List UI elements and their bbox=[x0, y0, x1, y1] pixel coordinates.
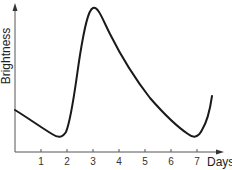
x-tick-label: 3 bbox=[90, 156, 96, 167]
x-axis-arrow-icon bbox=[216, 150, 224, 155]
brightness-curve bbox=[15, 8, 212, 137]
x-tick-label: 7 bbox=[194, 156, 200, 167]
x-axis-label: Days bbox=[207, 155, 232, 169]
light-curve-chart: 1234567 Brightness Days bbox=[0, 0, 232, 170]
y-axis-arrow-icon bbox=[13, 3, 18, 11]
x-tick-label: 2 bbox=[64, 156, 70, 167]
x-tick-label: 5 bbox=[142, 156, 148, 167]
x-tick-label: 6 bbox=[168, 156, 174, 167]
y-axis-label: Brightness bbox=[0, 28, 13, 85]
x-tick-label: 4 bbox=[116, 156, 122, 167]
x-tick-label: 1 bbox=[38, 156, 44, 167]
